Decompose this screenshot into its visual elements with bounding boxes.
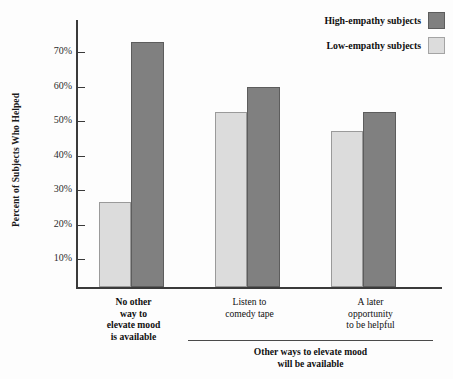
y-tick-label-10: 10%: [54, 252, 72, 263]
bar-high-empathy-comedy-tape: [247, 87, 280, 288]
group-label-line-3: elevate mood: [76, 319, 191, 331]
y-tick-10: 10%: [34, 259, 86, 260]
bracket-rule: [188, 340, 433, 341]
y-tick-mark-60: [78, 87, 85, 88]
group-label-no-other-way: No other way to elevate mood is availabl…: [76, 296, 191, 342]
y-tick-label-30: 30%: [54, 183, 72, 194]
y-tick-mark-70: [78, 52, 85, 53]
y-tick-mark-30: [78, 190, 85, 191]
y-tick-label-50: 50%: [54, 114, 72, 125]
bar-low-empathy-comedy-tape: [215, 112, 247, 287]
y-tick-50: 50%: [34, 121, 86, 122]
y-tick-20: 20%: [34, 225, 86, 226]
bar-low-empathy-later-opportunity: [331, 131, 363, 287]
y-tick-label-70: 70%: [54, 45, 72, 56]
bar-high-empathy-no-other-way: [131, 42, 164, 287]
group-label-later-opportunity: A later opportunity to be helpful: [308, 296, 433, 331]
group-label-line-4: is available: [76, 331, 191, 343]
group-label-line-2: opportunity: [308, 308, 433, 320]
group-label-line-2: comedy tape: [192, 308, 307, 320]
y-tick-label-20: 20%: [54, 218, 72, 229]
y-tick-60: 60%: [34, 87, 86, 88]
group-label-comedy-tape: Listen to comedy tape: [192, 296, 307, 319]
y-tick-mark-50: [78, 121, 85, 122]
y-tick-mark-40: [78, 156, 85, 157]
bar-high-empathy-later-opportunity: [363, 112, 396, 287]
x-axis-line: [76, 287, 442, 289]
plot-area: 70% 60% 50% 40% 30% 20% 10%: [76, 20, 442, 289]
bar-chart-figure: Percent of Subjects Who Helped High-empa…: [0, 0, 453, 379]
group-label-line-1: No other: [76, 296, 191, 308]
y-tick-label-60: 60%: [54, 80, 72, 91]
bracket-caption-line-2: will be available: [188, 358, 433, 370]
y-tick-mark-10: [78, 259, 85, 260]
y-axis-title: Percent of Subjects Who Helped: [6, 60, 26, 260]
group-label-line-1: Listen to: [192, 296, 307, 308]
bar-low-empathy-no-other-way: [99, 202, 131, 287]
group-label-line-3: to be helpful: [308, 319, 433, 331]
y-axis-line: [76, 20, 78, 289]
bracket-caption: Other ways to elevate mood will be avail…: [188, 346, 433, 370]
y-axis-title-text: Percent of Subjects Who Helped: [11, 93, 21, 227]
group-label-line-1: A later: [308, 296, 433, 308]
y-tick-70: 70%: [34, 52, 86, 53]
y-tick-mark-20: [78, 225, 85, 226]
y-tick-40: 40%: [34, 156, 86, 157]
group-label-line-2: way to: [76, 308, 191, 320]
y-tick-label-40: 40%: [54, 149, 72, 160]
y-tick-30: 30%: [34, 190, 86, 191]
bracket-caption-line-1: Other ways to elevate mood: [188, 346, 433, 358]
